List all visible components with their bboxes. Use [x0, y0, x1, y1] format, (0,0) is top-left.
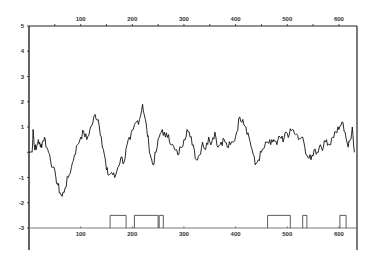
data-line — [29, 104, 354, 196]
y-tick-label: -2 — [19, 200, 25, 206]
x-top-tick-label: 300 — [179, 16, 190, 22]
y-tick-label: 4 — [21, 48, 25, 54]
y-tick-label: -3 — [19, 225, 25, 231]
x-axis-top: 100200300400500600 — [55, 16, 345, 26]
x-top-tick-label: 200 — [127, 16, 138, 22]
y-tick-label: 2 — [21, 99, 25, 105]
y-tick-label: -1 — [19, 175, 25, 181]
x-bottom-tick-label: 600 — [334, 231, 345, 237]
x-top-tick-label: 500 — [282, 16, 293, 22]
line-chart: 100200300400500600 100200300400500600 54… — [0, 0, 372, 259]
y-axis: 54321-1-2-3 — [19, 23, 29, 231]
x-bottom-tick-label: 200 — [127, 231, 138, 237]
x-top-tick-label: 100 — [76, 16, 87, 22]
y-tick-label: 1 — [21, 124, 25, 130]
segment-pulses — [110, 215, 346, 228]
x-bottom-tick-label: 300 — [179, 231, 190, 237]
y-tick-label: 5 — [21, 23, 25, 29]
y-tick-label: 3 — [21, 74, 25, 80]
x-bottom-tick-label: 500 — [282, 231, 293, 237]
x-top-tick-label: 600 — [334, 16, 345, 22]
plot-frame — [29, 26, 357, 250]
x-bottom-tick-label: 100 — [76, 231, 87, 237]
x-top-tick-label: 400 — [231, 16, 242, 22]
x-bottom-tick-label: 400 — [231, 231, 242, 237]
